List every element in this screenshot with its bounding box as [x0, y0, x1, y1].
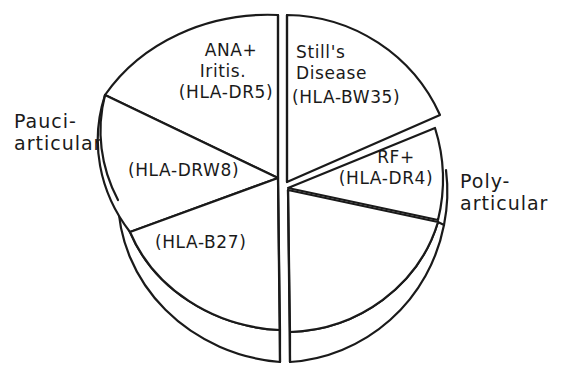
segment-label-rf-positive: RF+ (HLA-DR4) [332, 147, 440, 189]
group-label-pauciarticular: Pauci- articular [14, 110, 102, 154]
segment-label-line: (HLA-BW35) [292, 87, 400, 108]
segment-label-line: ANA+ [178, 40, 274, 61]
group-label-line: Poly- [460, 170, 548, 192]
segment-label-line: (HLA-DRW8) [128, 160, 239, 180]
poly-outer-arc [444, 170, 447, 225]
group-label-polyarticular: Poly- articular [460, 170, 548, 214]
segment-label-line: (HLA-DR5) [178, 82, 274, 103]
segment-label-line: (HLA-B27) [155, 232, 246, 252]
segment-label-line: RF+ [332, 147, 440, 168]
segment-label-line: (HLA-DR4) [332, 168, 440, 189]
group-label-line: articular [460, 192, 548, 214]
segment-label-stills-disease: Still's Disease (HLA-BW35) [292, 42, 400, 108]
group-label-line: Pauci- [14, 110, 102, 132]
segment-label-hla-b27: (HLA-B27) [155, 232, 246, 253]
segment-label-line: Still's [292, 42, 400, 63]
group-label-line: articular [14, 132, 102, 154]
segment-label-line: Disease [292, 63, 400, 84]
segment-label-ana-iritis: ANA+ Iritis. (HLA-DR5) [178, 40, 274, 103]
segment-label-hla-drw8: (HLA-DRW8) [128, 160, 239, 181]
segment-label-line: Iritis. [178, 61, 274, 82]
